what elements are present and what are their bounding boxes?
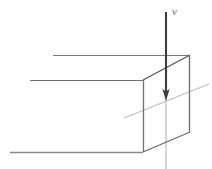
- velocity-label: v: [172, 6, 177, 17]
- box-with-velocity-arrow-diagram: [0, 0, 212, 169]
- figure-canvas: v: [0, 0, 212, 169]
